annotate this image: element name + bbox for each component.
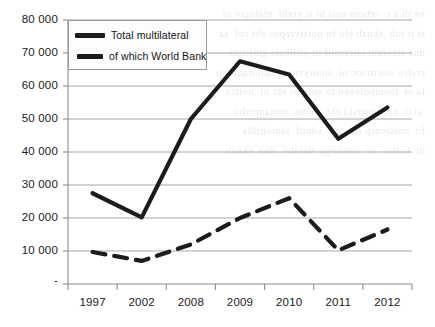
legend-label: Total multilateral	[111, 29, 189, 41]
y-axis-tick-label: 10 000	[2, 244, 58, 256]
legend-item-total-multilateral: Total multilateral	[75, 27, 189, 43]
x-axis-ticks	[68, 284, 412, 290]
line-chart: ve th a c rehoin noit ht si ereht etalug…	[0, 0, 435, 327]
y-axis-tick-label: 80 000	[2, 13, 58, 25]
x-axis-tick-label: 2010	[265, 296, 314, 308]
plot-area	[0, 0, 435, 327]
legend-label: of which World Bank	[109, 50, 206, 62]
x-axis-tick-label: 2012	[363, 296, 412, 308]
y-axis-tick-label: 30 000	[2, 178, 58, 190]
y-axis-tick-label: 60 000	[2, 79, 58, 91]
y-axis-tick-label: 40 000	[2, 145, 58, 157]
chart-legend: Total multilateral of which World Bank	[68, 20, 207, 70]
x-axis-tick-label: 2008	[166, 296, 215, 308]
y-axis-tick-label: -	[2, 274, 58, 286]
legend-item-world-bank: of which World Bank	[75, 48, 206, 64]
solid-line-key-icon	[75, 33, 105, 38]
x-axis-tick-label: 1997	[68, 296, 117, 308]
y-axis-tick-label: 70 000	[2, 46, 58, 58]
x-axis-tick-label: 2011	[314, 296, 363, 308]
y-axis-tick-label: 50 000	[2, 112, 58, 124]
series-line-total-multilateral	[93, 61, 388, 217]
y-axis-tick-label: 20 000	[2, 211, 58, 223]
dashed-line-key-icon	[77, 54, 103, 59]
x-axis-tick-label: 2002	[117, 296, 166, 308]
x-axis-tick-label: 2009	[215, 296, 264, 308]
